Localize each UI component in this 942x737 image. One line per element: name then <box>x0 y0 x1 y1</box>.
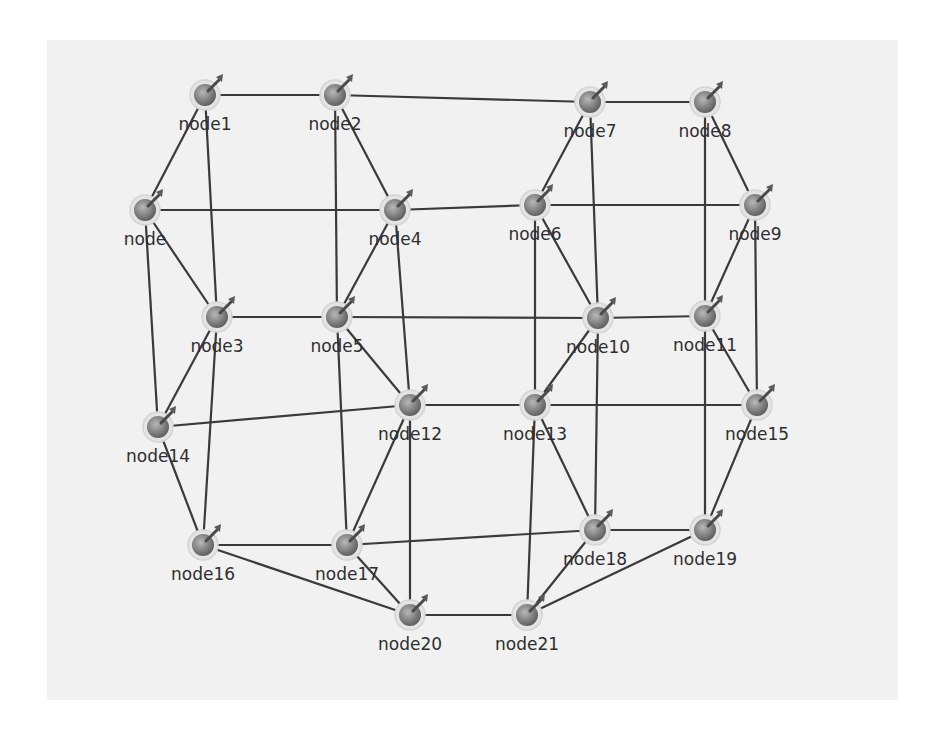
node-label: node20 <box>378 634 442 654</box>
graph-node-node16[interactable]: node16 <box>171 524 235 584</box>
node-label: node13 <box>503 424 567 444</box>
graph-node-node4[interactable]: node4 <box>368 189 421 249</box>
graph-node-node11[interactable]: node11 <box>673 295 737 355</box>
edge-node1-node <box>145 95 205 210</box>
edge-node10-node13 <box>535 318 598 405</box>
node-label: node12 <box>378 424 442 444</box>
graph-node-node1[interactable]: node1 <box>178 74 231 134</box>
node-label: node10 <box>566 337 630 357</box>
edge-node9-node11 <box>705 205 755 316</box>
node-label: node16 <box>171 564 235 584</box>
edge-node-node3 <box>145 210 217 317</box>
graph-node-node13[interactable]: node13 <box>503 384 567 444</box>
node-label: node15 <box>725 424 789 444</box>
node-label: node11 <box>673 335 737 355</box>
node-label: node19 <box>673 549 737 569</box>
node-label: node2 <box>308 114 361 134</box>
graph-node-node20[interactable]: node20 <box>378 594 442 654</box>
graph-node-node2[interactable]: node2 <box>308 74 361 134</box>
node-label: node6 <box>508 224 561 244</box>
graph-node-node14[interactable]: node14 <box>126 406 190 466</box>
edge-node10-node11 <box>598 316 705 318</box>
network-graph: node1node2node7node8nodenode4node6node9n… <box>0 0 942 737</box>
graph-node-node17[interactable]: node17 <box>315 524 379 584</box>
node-label: node7 <box>563 121 616 141</box>
graph-node-node21[interactable]: node21 <box>495 594 559 654</box>
edge-node5-node12 <box>337 317 410 405</box>
graph-node-node3[interactable]: node3 <box>190 296 243 356</box>
graph-node-node8[interactable]: node8 <box>678 81 731 141</box>
graph-node-node7[interactable]: node7 <box>563 81 616 141</box>
graph-node-node9[interactable]: node9 <box>728 184 781 244</box>
node-label: node3 <box>190 336 243 356</box>
edge-node4-node5 <box>337 210 395 317</box>
node-label: node1 <box>178 114 231 134</box>
edge-node8-node9 <box>705 102 755 205</box>
edge-node17-node18 <box>347 530 595 545</box>
edge-node14-node12 <box>158 405 410 427</box>
edge-node2-node4 <box>335 95 395 210</box>
node-label: node9 <box>728 224 781 244</box>
node-label: node8 <box>678 121 731 141</box>
edge-node4-node6 <box>395 205 535 210</box>
node-label: node17 <box>315 564 379 584</box>
node-label: node5 <box>310 336 363 356</box>
edge-node5-node10 <box>337 317 598 318</box>
edge-node3-node14 <box>158 317 217 427</box>
node-label: node18 <box>563 549 627 569</box>
graph-node-node19[interactable]: node19 <box>673 509 737 569</box>
graph-node-node10[interactable]: node10 <box>566 297 630 357</box>
graph-node-node[interactable]: node <box>124 189 166 249</box>
node-layer: node1node2node7node8nodenode4node6node9n… <box>124 74 789 654</box>
edge-node14-node16 <box>158 427 203 545</box>
node-label: node <box>124 229 166 249</box>
edge-node6-node10 <box>535 205 598 318</box>
graph-node-node5[interactable]: node5 <box>310 296 363 356</box>
edge-node2-node7 <box>335 95 590 102</box>
edge-node7-node6 <box>535 102 590 205</box>
edge-node19-node21 <box>527 530 705 615</box>
graph-node-node18[interactable]: node18 <box>563 509 627 569</box>
node-label: node4 <box>368 229 421 249</box>
node-label: node14 <box>126 446 190 466</box>
graph-node-node6[interactable]: node6 <box>508 184 561 244</box>
graph-node-node15[interactable]: node15 <box>725 384 789 444</box>
node-label: node21 <box>495 634 559 654</box>
graph-node-node12[interactable]: node12 <box>378 384 442 444</box>
